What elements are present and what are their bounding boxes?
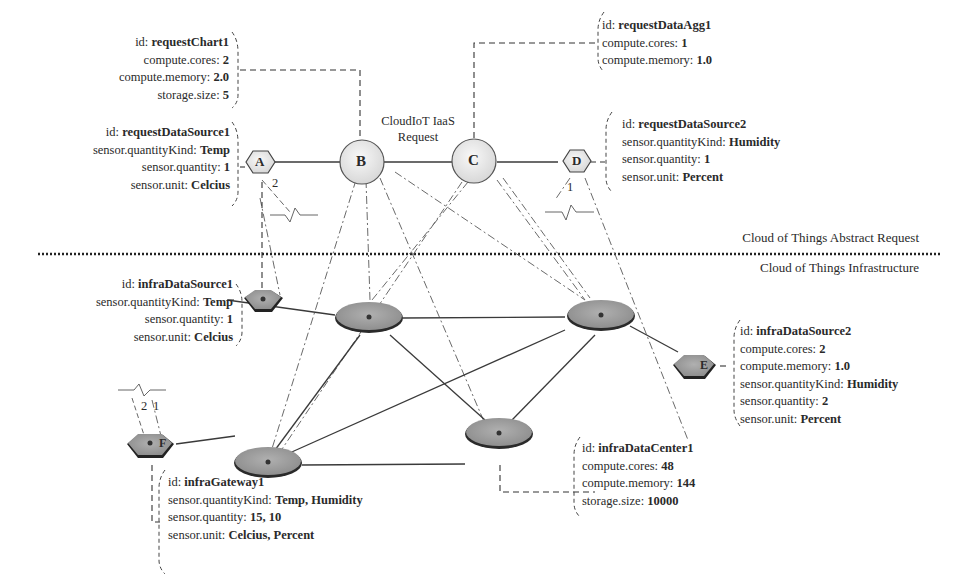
node-label-F: F [159, 436, 166, 451]
multiplicity-label-a: 2 [272, 176, 278, 191]
diagram-title: CloudIoT IaaS Request [368, 113, 468, 145]
layer-label-abstract-request: Cloud of Things Abstract Request [742, 230, 919, 246]
annotation-infra-data-source1: id: infraDataSource1 sensor.quantityKind… [96, 276, 233, 346]
infra-node-1[interactable] [335, 302, 403, 333]
multiplicity-label-f-left: 2 [141, 399, 147, 414]
annotation-request-data-source2: id: requestDataSource2 sensor.quantityKi… [622, 116, 780, 186]
annotation-infra-data-source2: id: infraDataSource2 compute.cores: 2 co… [740, 323, 898, 428]
multiplicity-label-d: 1 [567, 180, 573, 195]
title-line-2: Request [368, 129, 468, 145]
node-label-C: C [468, 152, 479, 169]
annotation-request-data-agg1: id: requestDataAgg1 compute.cores: 1 com… [602, 17, 712, 70]
annotation-infra-gateway1: id: infraGateway1 sensor.quantityKind: T… [168, 474, 363, 544]
infra-node-F[interactable] [127, 434, 174, 458]
title-line-1: CloudIoT IaaS [368, 113, 468, 129]
multiplicity-label-f-right: 1 [153, 399, 159, 414]
annotation-infra-data-center1: id: infraDataCenter1 compute.cores: 48 c… [582, 440, 695, 510]
layer-label-infrastructure: Cloud of Things Infrastructure [760, 260, 919, 276]
infra-node-E[interactable] [673, 355, 716, 379]
infra-node-2[interactable] [567, 300, 635, 331]
infra-data-source-1-node[interactable] [244, 290, 283, 312]
node-label-E: E [700, 358, 708, 373]
annotation-request-data-source1: id: requestDataSource1 sensor.quantityKi… [93, 124, 230, 194]
node-label-B: B [356, 153, 366, 170]
infra-data-center-node[interactable] [465, 418, 533, 449]
node-label-A: A [255, 154, 264, 170]
node-label-D: D [572, 153, 581, 169]
annotation-request-chart1: id: requestChart1 compute.cores: 2 compu… [119, 34, 229, 104]
